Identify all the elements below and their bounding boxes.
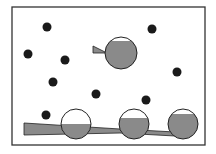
particle-dot [148, 25, 157, 34]
particle-dot [142, 96, 151, 105]
diagram [0, 0, 216, 154]
particle-dot [173, 68, 182, 77]
particle-dot [42, 111, 51, 120]
particle-dot [92, 90, 101, 99]
particle-dot [61, 56, 70, 65]
particle-dot [49, 78, 58, 87]
particle-dot [24, 50, 33, 59]
particle-dot [43, 23, 52, 32]
